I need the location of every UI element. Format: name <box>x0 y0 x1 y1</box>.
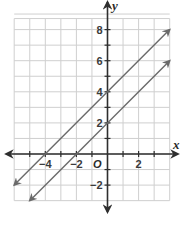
y-tick-label: 4 <box>96 86 103 98</box>
x-axis-label: x <box>172 137 180 152</box>
coordinate-plane: −4−228642−2 x y O <box>0 0 187 225</box>
origin-label: O <box>93 158 102 170</box>
x-tick-label: −4 <box>39 158 52 170</box>
y-axis-label: y <box>110 0 118 13</box>
x-tick-label: −2 <box>70 158 83 170</box>
y-tick-label: 2 <box>96 117 102 129</box>
y-tick-label: 6 <box>96 55 102 67</box>
y-tick-label: 8 <box>96 24 102 36</box>
x-tick-label: 2 <box>136 158 142 170</box>
y-tick-label: −2 <box>90 179 103 191</box>
